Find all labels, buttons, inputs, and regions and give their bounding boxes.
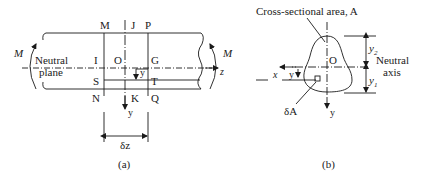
- y1-label: y1: [368, 74, 377, 89]
- dz-label: δz: [120, 139, 130, 151]
- caption-a: (a): [118, 158, 131, 171]
- point-O: O: [114, 54, 122, 66]
- right-moment-arrow: [210, 44, 216, 89]
- point-K: K: [131, 92, 139, 104]
- area-element-label: δA: [284, 105, 297, 117]
- neutral-axis-label-1: Neutral: [376, 54, 409, 66]
- point-J: J: [131, 19, 136, 31]
- point-P: P: [145, 19, 151, 31]
- area-label: Cross-sectional area, A: [256, 5, 358, 17]
- origin-label-b: O: [329, 54, 337, 66]
- small-y-label-b: y: [289, 69, 294, 80]
- point-M: M: [100, 19, 110, 31]
- z-axis-label: z: [219, 66, 224, 77]
- neutral-axis-label-2: axis: [383, 66, 401, 78]
- area-element-leader: [296, 82, 316, 104]
- small-y-label: y: [140, 67, 145, 78]
- y-axis-label-b: y: [330, 107, 335, 118]
- caption-b: (b): [322, 158, 335, 171]
- neutral-plane-label-1: Neutral: [35, 54, 68, 66]
- point-I: I: [94, 54, 98, 66]
- area-label-leader: [307, 18, 325, 42]
- point-Q: Q: [151, 92, 159, 104]
- neutral-plane-label-2: plane: [39, 66, 63, 78]
- x-axis-label: x: [272, 69, 278, 80]
- cross-section-outline: [304, 36, 352, 92]
- left-moment-arrow: [30, 44, 36, 89]
- moment-label-right: M: [222, 47, 233, 59]
- figure-a: [22, 20, 218, 142]
- point-G: G: [151, 54, 159, 66]
- figure-b: [256, 18, 376, 108]
- y-axis-label-a: y: [128, 107, 133, 118]
- beam-bending-diagram: M M Neutral plane M J P I O G S T N K Q …: [0, 0, 421, 179]
- point-N: N: [92, 92, 100, 104]
- moment-label-left: M: [13, 47, 24, 59]
- beam-right-break: [198, 33, 203, 89]
- point-S: S: [93, 75, 99, 87]
- point-T: T: [151, 75, 158, 87]
